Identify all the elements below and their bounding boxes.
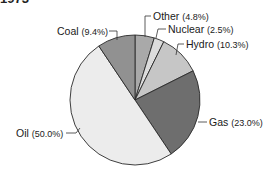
label-other: Other (4.8%) [153, 10, 209, 22]
leader-line-other [145, 16, 151, 37]
label-hydro: Hydro (10.3%) [186, 38, 248, 50]
label-coal: Coal (9.4%) [57, 25, 108, 37]
pie-slices [70, 35, 200, 165]
label-gas: Gas (23.0%) [209, 116, 263, 128]
pie-chart: Other (4.8%) Nuclear (2.5%) Hydro (10.3%… [0, 0, 273, 175]
leader-line-nuclear [156, 29, 166, 38]
label-nuclear: Nuclear (2.5%) [168, 23, 234, 35]
label-oil: Oil (50.0%) [16, 127, 63, 139]
